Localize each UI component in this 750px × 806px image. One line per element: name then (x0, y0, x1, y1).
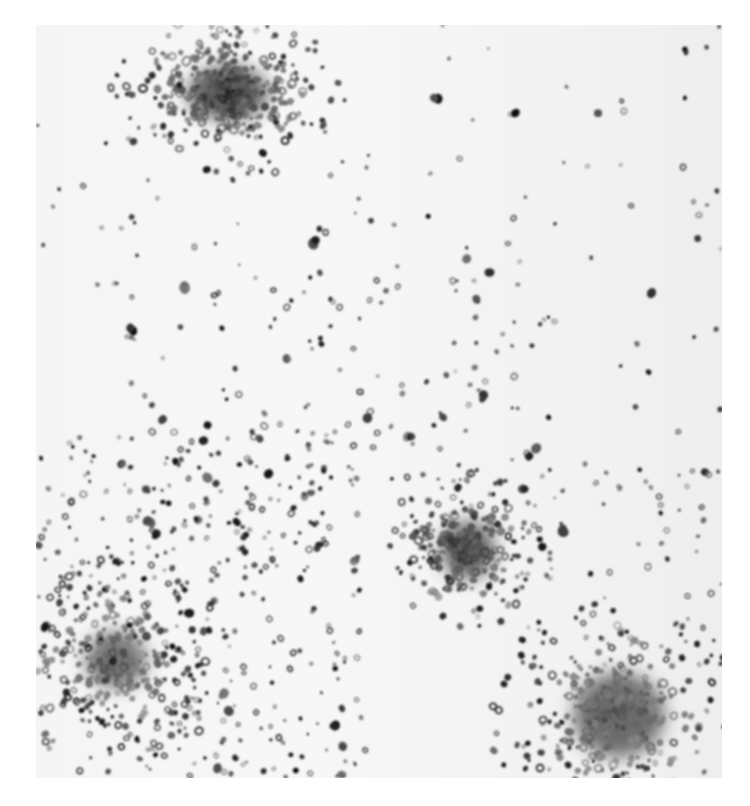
colony-cores (86, 67, 664, 757)
page (0, 0, 750, 806)
micrograph-image (36, 25, 722, 778)
cell-colony-plate (36, 25, 722, 778)
